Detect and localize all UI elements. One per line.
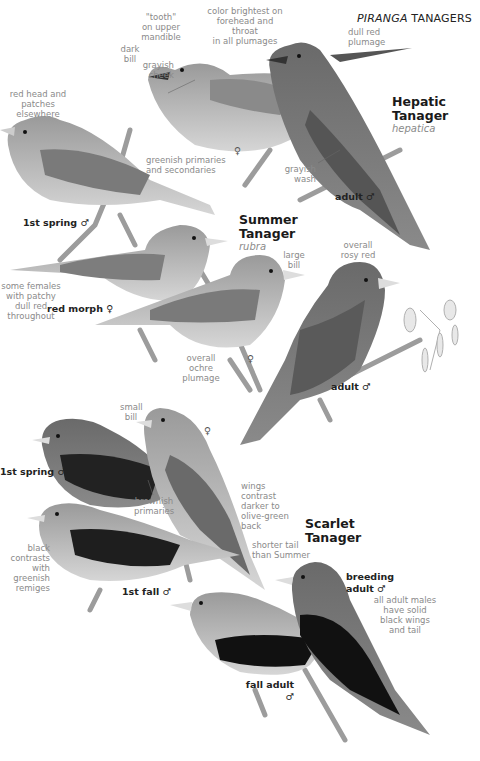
- species-title-hepatic: Hepatic Tanager hepatica: [392, 95, 448, 134]
- note-dull-red: dull redplumage: [348, 27, 385, 47]
- note-line: red head and: [2, 89, 74, 99]
- note-line: in all plumages: [205, 36, 285, 46]
- note-line: large: [283, 250, 305, 260]
- note-small-bill: smallbill: [120, 402, 142, 422]
- note-line: remiges: [0, 583, 50, 593]
- note-line: and tail: [370, 625, 440, 635]
- note-line: "tooth": [136, 12, 186, 22]
- note-grayish-cheek: grayishcheek: [138, 60, 174, 80]
- note-color-brightest: color brightest onforehead and throatin …: [205, 6, 285, 46]
- scarlet-fall-adult-male-label: fall adult ♂: [214, 679, 294, 703]
- genus-name: PIRANGA: [357, 12, 408, 25]
- note-line: bill: [120, 412, 142, 422]
- note-line: have solid: [370, 605, 440, 615]
- note-line: black wings: [370, 615, 440, 625]
- note-line: plumage: [176, 373, 226, 383]
- note-grayish-wash: grayishwash: [276, 164, 316, 184]
- note-line: black: [0, 543, 50, 553]
- note-line: small: [120, 402, 142, 412]
- header-title: TANAGERS: [411, 12, 472, 25]
- scarlet-breeding-adult-male-label: breeding adult ♂: [346, 571, 394, 595]
- label-line: adult ♂: [346, 583, 394, 595]
- species-name: Hepatic: [392, 95, 448, 109]
- note-large-bill: largebill: [283, 250, 305, 270]
- note-line: contrast: [241, 491, 289, 501]
- note-line: patches elsewhere: [2, 99, 74, 119]
- note-line: greenish primaries: [146, 155, 226, 165]
- note-brownish-primaries: brownishprimaries: [134, 496, 174, 516]
- note-line: darker to: [241, 501, 289, 511]
- note-line: on upper: [136, 22, 186, 32]
- note-all-adult-males: all adult maleshave solidblack wingsand …: [370, 595, 440, 635]
- species-name: Tanager: [239, 227, 298, 241]
- note-line: than Summer: [252, 550, 310, 560]
- note-shorter-tail: shorter tailthan Summer: [252, 540, 310, 560]
- note-line: back: [241, 521, 289, 531]
- scarlet-female-label: ♀: [204, 425, 211, 436]
- note-line: shorter tail: [252, 540, 310, 550]
- note-line: with greenish: [0, 563, 50, 583]
- scientific-name: hepatica: [392, 123, 448, 134]
- note-red-head: red head andpatches elsewhere: [2, 89, 74, 119]
- species-name: Summer: [239, 213, 298, 227]
- note-overall-rosy: overallrosy red: [338, 240, 378, 260]
- summer-1st-spring-male-label: 1st spring ♂: [23, 217, 89, 228]
- species-title-summer: Summer Tanager rubra: [239, 213, 298, 252]
- note-line: wings: [241, 481, 289, 491]
- label-line: ♂: [214, 691, 294, 703]
- note-line: mandible: [136, 32, 186, 42]
- note-line: wash: [276, 174, 316, 184]
- note-line: some females: [0, 281, 62, 291]
- summer-female-label: ♀: [247, 353, 254, 364]
- summer-adult-male-label: adult ♂: [331, 381, 371, 392]
- note-line: primaries: [134, 506, 174, 516]
- label-line: breeding: [346, 571, 394, 583]
- note-line: grayish: [276, 164, 316, 174]
- note-black-contrasts: blackcontrastswith greenishremiges: [0, 543, 50, 593]
- note-line: dull red: [348, 27, 385, 37]
- note-line: contrasts: [0, 553, 50, 563]
- species-name: Tanager: [392, 109, 448, 123]
- note-line: with patchy dull red: [0, 291, 62, 311]
- page-header: PIRANGA TANAGERS: [357, 12, 472, 25]
- note-line: and secondaries: [146, 165, 226, 175]
- species-title-scarlet: Scarlet Tanager: [305, 517, 361, 545]
- note-some-females: some femaleswith patchy dull redthrougho…: [0, 281, 62, 321]
- scarlet-1st-spring-male-label: 1st spring ♂: [0, 466, 66, 477]
- hepatic-adult-male-label: adult ♂: [335, 191, 375, 202]
- note-line: color brightest on: [205, 6, 285, 16]
- species-name: Scarlet: [305, 517, 361, 531]
- note-line: plumage: [348, 37, 385, 47]
- note-line: dark: [118, 44, 142, 54]
- label-line: fall adult: [214, 679, 294, 691]
- note-greenish-primaries: greenish primariesand secondaries: [146, 155, 226, 175]
- note-line: olive-green: [241, 511, 289, 521]
- note-line: bill: [283, 260, 305, 270]
- note-wings-contrast: wingscontrastdarker toolive-greenback: [241, 481, 289, 531]
- note-line: forehead and throat: [205, 16, 285, 36]
- note-line: all adult males: [370, 595, 440, 605]
- note-line: brownish: [134, 496, 174, 506]
- note-tooth: "tooth"on uppermandible: [136, 12, 186, 42]
- note-overall-ochre: overall ochreplumage: [176, 353, 226, 383]
- species-name: Tanager: [305, 531, 361, 545]
- scarlet-1st-fall-male-label: 1st fall ♂: [122, 586, 171, 597]
- flower-sprig: [404, 300, 458, 372]
- hepatic-female-label: ♀: [234, 145, 241, 156]
- note-line: overall ochre: [176, 353, 226, 373]
- note-line: throughout: [0, 311, 62, 321]
- note-line: rosy red: [338, 250, 378, 260]
- note-line: overall: [338, 240, 378, 250]
- note-line: cheek: [138, 70, 174, 80]
- note-line: grayish: [138, 60, 174, 70]
